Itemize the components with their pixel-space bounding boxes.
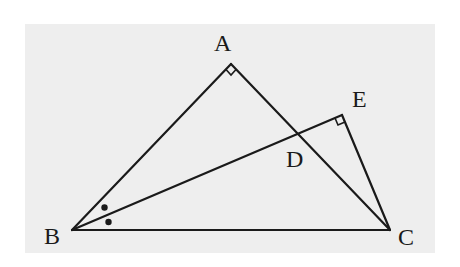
label-E: E <box>352 86 367 112</box>
label-B: B <box>44 223 60 249</box>
label-D: D <box>286 146 303 172</box>
segment-BE <box>72 115 342 230</box>
right-angle-marker-A <box>226 70 236 76</box>
label-C: C <box>398 224 414 250</box>
segment-AB <box>72 64 231 230</box>
angle-mark-dot-upper <box>101 204 107 210</box>
triangle-diagram: A B C D E <box>0 0 460 267</box>
segment-EC <box>342 115 390 230</box>
angle-mark-dot-lower <box>105 219 111 225</box>
label-A: A <box>214 30 232 56</box>
